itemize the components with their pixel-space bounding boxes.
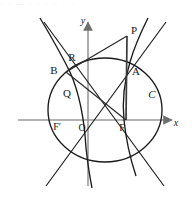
segments-group — [66, 36, 127, 120]
scan-artifact-text: · · — · · · · · · — [0, 0, 120, 8]
ellipse-C-curve — [48, 58, 162, 162]
label-F: F — [119, 122, 125, 133]
segment-PF — [126, 36, 127, 120]
label-P: P — [131, 24, 137, 36]
label-R: R — [68, 51, 76, 63]
label-Q: Q — [63, 87, 71, 99]
x-axis-label: x — [173, 117, 179, 128]
figure-canvas: · · — · · · · · · — [0, 0, 192, 200]
label-O: O — [78, 122, 85, 133]
y-axis-label: y — [80, 15, 86, 26]
label-F-prime: F′ — [53, 121, 61, 132]
label-C: C — [148, 88, 156, 100]
hyperbola-group — [40, 18, 148, 188]
conic-geometry-figure: P A R B Q C F′ O F x y — [0, 0, 192, 200]
point-labels-group: P A R B Q C F′ O F — [50, 24, 156, 134]
label-B: B — [50, 64, 57, 76]
segment-BF — [66, 72, 126, 120]
label-A: A — [132, 65, 140, 77]
